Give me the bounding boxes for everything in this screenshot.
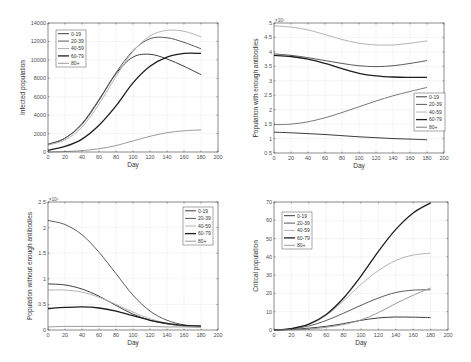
- x-tick-label: 20: [62, 154, 68, 160]
- x-tick-label: 20: [62, 332, 68, 338]
- legend-label: 60-79: [198, 230, 211, 236]
- axis-exponent: ×10⁵: [49, 197, 59, 202]
- figure: 0204060801001201401601802000200040006000…: [0, 0, 471, 362]
- y-tick-label: 30: [266, 272, 272, 278]
- legend: 0-1920-3940-5960-7980+: [183, 207, 213, 245]
- y-tick-label: 1.5: [264, 121, 272, 127]
- x-tick-label: 160: [405, 155, 414, 161]
- y-tick-label: 4: [269, 49, 272, 55]
- x-tick-label: 60: [322, 155, 328, 161]
- critical-population-chart: 0204060801001201401601802000102030405060…: [252, 199, 453, 347]
- x-tick-label: 20: [288, 155, 294, 161]
- legend-label: 80+: [71, 60, 80, 66]
- x-tick-label: 140: [162, 154, 171, 160]
- x-tick-label: 40: [306, 332, 312, 338]
- y-tick-label: 3.5: [264, 63, 272, 69]
- legend-label: 0-19: [71, 31, 81, 37]
- infected-population-chart: 0204060801001201401601802000200040006000…: [19, 20, 223, 169]
- x-tick-label: 40: [79, 332, 85, 338]
- y-tick-label: 1: [269, 136, 272, 142]
- x-tick-label: 100: [128, 154, 137, 160]
- y-tick-label: 4.5: [264, 34, 272, 40]
- legend-label: 20-39: [297, 220, 310, 226]
- x-tick-label: 80: [113, 154, 119, 160]
- x-tick-label: 60: [96, 332, 102, 338]
- x-tick-label: 0: [272, 155, 275, 161]
- x-tick-label: 140: [162, 332, 171, 338]
- y-tick-label: 12000: [31, 38, 46, 44]
- y-tick-label: 5: [269, 20, 272, 26]
- legend-label: 20-39: [71, 38, 84, 44]
- x-tick-label: 100: [128, 332, 137, 338]
- x-tick-label: 100: [354, 155, 363, 161]
- y-axis-label: Infected population: [19, 60, 27, 115]
- x-tick-label: 120: [371, 155, 380, 161]
- x-tick-label: 120: [145, 154, 154, 160]
- y-tick-label: 2.5: [38, 199, 46, 205]
- y-tick-label: 3: [269, 78, 272, 84]
- y-tick-label: 14000: [31, 20, 46, 26]
- y-tick-label: 40: [266, 254, 272, 260]
- y-tick-label: 0.5: [38, 301, 46, 307]
- legend-label: 0-19: [297, 213, 307, 219]
- y-tick-label: 0.5: [264, 150, 272, 156]
- y-tick-label: 0: [43, 327, 46, 333]
- legend-label: 80+: [297, 242, 306, 248]
- x-tick-label: 160: [179, 332, 188, 338]
- x-tick-label: 180: [422, 155, 431, 161]
- population-with-antibodies-chart: 0204060801001201401601802000.511.522.533…: [252, 18, 449, 171]
- y-tick-label: 50: [266, 236, 272, 242]
- y-tick-label: 1: [43, 276, 46, 282]
- x-tick-label: 200: [439, 155, 448, 161]
- x-axis-label: Day: [127, 161, 139, 169]
- x-tick-label: 120: [374, 332, 383, 338]
- x-tick-label: 200: [443, 332, 452, 338]
- y-axis-label: Critical population: [252, 240, 260, 292]
- legend-label: 60-79: [297, 235, 310, 241]
- legend: 0-1920-3940-5960-7980+: [56, 30, 86, 67]
- y-tick-label: 0: [269, 327, 272, 333]
- population-without-antibodies-chart: 02040608010012014016018020000.511.522.5×…: [26, 197, 223, 348]
- y-tick-label: 2: [269, 107, 272, 113]
- x-axis-label: Day: [127, 339, 139, 347]
- legend-label: 0-19: [429, 94, 439, 100]
- x-axis-label: Day: [353, 162, 365, 170]
- y-axis-label: Population with enough antibodies: [252, 38, 260, 138]
- legend-label: 20-39: [429, 101, 442, 107]
- legend-label: 0-19: [198, 208, 208, 214]
- x-tick-label: 140: [388, 155, 397, 161]
- legend-label: 20-39: [198, 215, 211, 221]
- x-tick-label: 0: [46, 154, 49, 160]
- y-tick-label: 8000: [34, 75, 46, 81]
- x-tick-label: 140: [391, 332, 400, 338]
- y-axis-label: Population without enough antibodies: [26, 211, 34, 320]
- x-tick-label: 40: [305, 155, 311, 161]
- x-tick-label: 40: [79, 154, 85, 160]
- x-tick-label: 200: [213, 332, 222, 338]
- legend-label: 80+: [429, 124, 438, 130]
- axis-exponent: ×10⁴: [275, 18, 285, 23]
- y-tick-label: 2000: [34, 131, 46, 137]
- x-tick-label: 0: [46, 332, 49, 338]
- y-tick-label: 2: [43, 225, 46, 231]
- x-tick-label: 0: [272, 332, 275, 338]
- legend: 0-1920-3940-5960-7980+: [282, 212, 312, 249]
- x-tick-label: 160: [409, 332, 418, 338]
- legend-label: 40-59: [429, 109, 442, 115]
- y-tick-label: 0: [43, 149, 46, 155]
- x-tick-label: 100: [356, 332, 365, 338]
- y-tick-label: 2.5: [264, 92, 272, 98]
- y-tick-label: 20: [266, 290, 272, 296]
- y-tick-label: 70: [266, 199, 272, 205]
- x-tick-label: 60: [96, 154, 102, 160]
- legend-label: 40-59: [71, 45, 84, 51]
- x-tick-label: 180: [196, 154, 205, 160]
- legend-label: 60-79: [429, 116, 442, 122]
- x-tick-label: 80: [339, 155, 345, 161]
- x-tick-label: 120: [145, 332, 154, 338]
- x-tick-label: 80: [113, 332, 119, 338]
- legend-label: 80+: [198, 238, 207, 244]
- legend-label: 40-59: [297, 227, 310, 233]
- y-tick-label: 10: [266, 309, 272, 315]
- x-axis-label: Day: [355, 339, 367, 347]
